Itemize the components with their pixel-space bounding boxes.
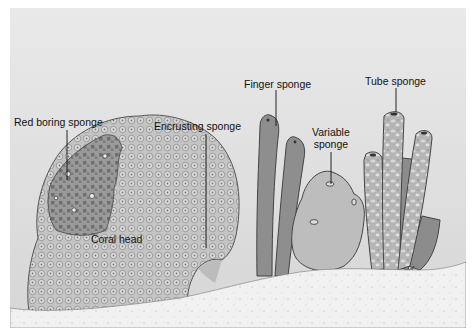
sponge-illustration: Red boring sponge Encrusting sponge Fing… [10, 8, 466, 328]
label-encrusting-sponge: Encrusting sponge [154, 120, 241, 132]
label-finger-sponge: Finger sponge [244, 78, 311, 90]
illustration-graphic [10, 8, 466, 328]
label-red-boring-sponge: Red boring sponge [14, 116, 103, 128]
label-variable-line2: sponge [314, 138, 348, 150]
label-coral-head: Coral head [91, 233, 142, 245]
label-variable-line1: Variable [312, 126, 350, 138]
label-variable-sponge: Variable sponge [312, 126, 350, 150]
label-tube-sponge: Tube sponge [365, 75, 426, 87]
